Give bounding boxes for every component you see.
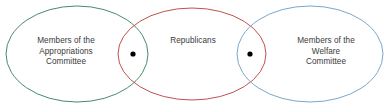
venn-diagram-canvas: [0, 0, 388, 109]
ellipse-welfare: [237, 6, 383, 102]
venn-diagram: Members of the Appropriations Committee …: [0, 0, 388, 109]
marker-dot-right-overlap: [247, 51, 252, 56]
marker-dot-left-overlap: [130, 51, 135, 56]
ellipse-appropriations: [6, 6, 148, 102]
ellipse-republicans: [118, 8, 266, 100]
